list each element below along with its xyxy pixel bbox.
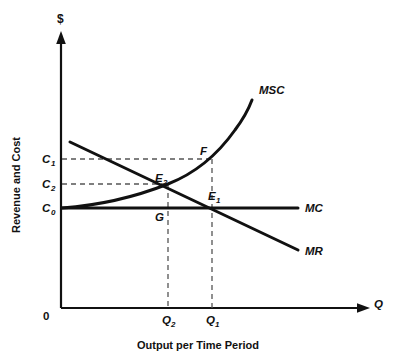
x-axis-symbol: Q — [374, 298, 383, 310]
annotation-e1-sub: 1 — [216, 196, 221, 205]
y-tick-c1: C 1 — [42, 153, 56, 168]
x-tick-q1-base: Q — [206, 314, 215, 326]
y-axis — [56, 31, 66, 308]
x-tick-q2-base: Q — [162, 314, 171, 326]
curve-label-mr: MR — [305, 245, 324, 257]
curve-label-mc: MC — [305, 202, 324, 214]
x-tick-q2-sub: 2 — [170, 320, 176, 329]
annotation-f: F — [200, 145, 208, 157]
y-tick-c2-base: C — [42, 178, 51, 190]
annotation-g: G — [155, 211, 164, 223]
y-tick-c0-base: C — [42, 202, 51, 214]
y-tick-c0-sub: 0 — [51, 208, 56, 217]
curve-msc — [62, 100, 252, 208]
figure-container: $ Q 0 MSC MC MR C 1 C 2 — [0, 0, 404, 364]
economics-externality-chart: $ Q 0 MSC MC MR C 1 C 2 — [0, 0, 404, 364]
x-tick-q1-sub: 1 — [215, 320, 220, 329]
y-axis-title: Revenue and Cost — [10, 137, 22, 233]
x-axis-title: Output per Time Period — [137, 339, 259, 351]
x-tick-q1: Q 1 — [206, 314, 220, 329]
y-tick-c2-sub: 2 — [50, 184, 56, 193]
annotation-e2-sub: 2 — [162, 178, 168, 187]
curve-label-msc: MSC — [259, 84, 285, 96]
annotation-e1: E 1 — [208, 190, 221, 205]
curve-mr — [70, 142, 298, 250]
y-tick-c2: C 2 — [42, 178, 56, 193]
origin-label: 0 — [43, 310, 49, 322]
y-axis-unit-symbol: $ — [57, 12, 64, 26]
y-tick-c1-sub: 1 — [51, 159, 56, 168]
annotation-e2-base: E — [155, 172, 163, 184]
annotation-e1-base: E — [208, 190, 216, 202]
y-tick-c0: C 0 — [42, 202, 56, 217]
x-tick-q2: Q 2 — [162, 314, 176, 329]
y-tick-c1-base: C — [42, 153, 51, 165]
x-axis — [61, 303, 370, 313]
y-axis-arrowhead — [56, 31, 66, 44]
x-axis-arrowhead — [357, 303, 370, 313]
guide-lines — [62, 159, 212, 308]
